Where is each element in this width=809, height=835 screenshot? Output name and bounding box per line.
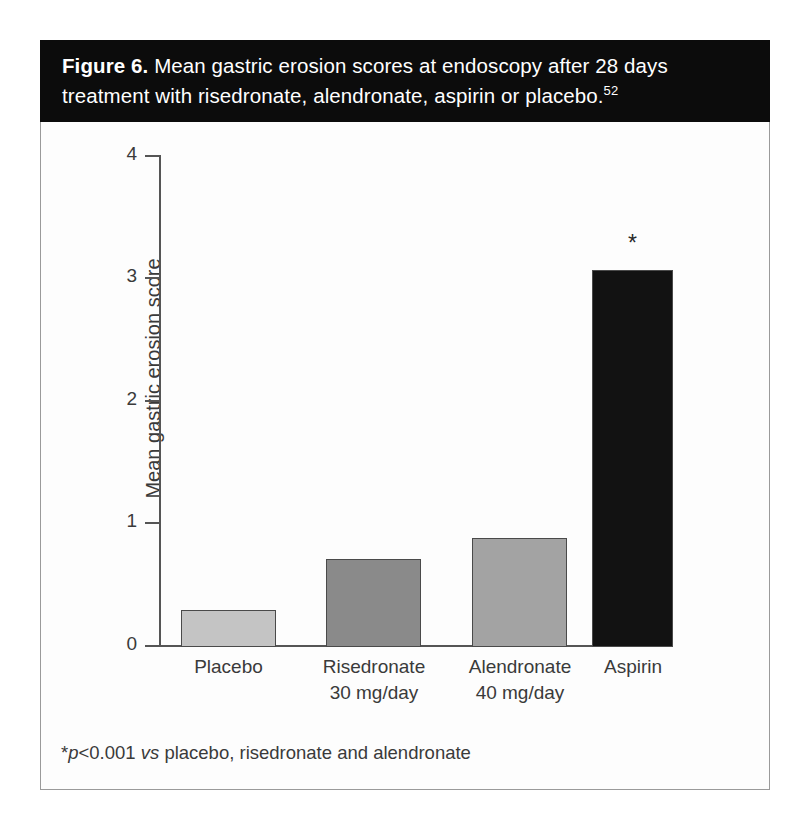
figure-root: Figure 6. Mean gastric erosion scores at…	[0, 0, 809, 835]
footnote-p-value: <0.001	[79, 742, 141, 763]
footnote-vs: vs	[141, 742, 160, 763]
x-label-risedronate-line2: 30 mg/day	[304, 680, 444, 706]
x-label-alendronate-line1: Alendronate	[450, 654, 590, 680]
x-label-risedronate: Risedronate 30 mg/day	[304, 654, 444, 706]
x-label-risedronate-line1: Risedronate	[304, 654, 444, 680]
bar-placebo	[181, 610, 276, 647]
footnote-p-symbol: p	[68, 742, 78, 763]
x-label-alendronate-line2: 40 mg/day	[450, 680, 590, 706]
bars-layer: *	[41, 122, 769, 647]
figure-caption-bar: Figure 6. Mean gastric erosion scores at…	[40, 40, 770, 122]
bar-aspirin	[592, 270, 673, 647]
x-label-placebo-line1: Placebo	[161, 654, 296, 680]
footnote-tail: placebo, risedronate and alendronate	[159, 742, 471, 763]
figure-number-label: Figure 6.	[62, 54, 148, 77]
x-label-aspirin-line1: Aspirin	[578, 654, 688, 680]
x-label-alendronate: Alendronate 40 mg/day	[450, 654, 590, 706]
x-label-aspirin: Aspirin	[578, 654, 688, 680]
significance-marker-aspirin: *	[592, 230, 673, 257]
x-axis-labels: Placebo Risedronate 30 mg/day Alendronat…	[41, 654, 769, 724]
figure-caption-reference: 52	[604, 83, 619, 98]
x-label-placebo: Placebo	[161, 654, 296, 680]
figure-caption-body: Mean gastric erosion scores at endoscopy…	[62, 54, 668, 107]
figure-caption-text: Figure 6. Mean gastric erosion scores at…	[62, 51, 748, 111]
figure-footnote: *p<0.001 vs placebo, risedronate and ale…	[61, 742, 471, 764]
chart-plot-area: Mean gastric erosion score 4 3 2 1 0 * P…	[41, 122, 769, 722]
bar-risedronate	[326, 559, 421, 647]
bar-alendronate	[472, 538, 567, 647]
